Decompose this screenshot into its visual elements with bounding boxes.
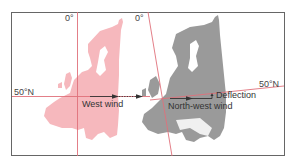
parallel-label-original: 50°N [14, 88, 34, 97]
deflection-label: Deflection [216, 91, 256, 100]
west-wind-label: West wind [82, 100, 123, 109]
meridian-label-rotated: 0° [135, 14, 144, 23]
diagram-canvas [0, 0, 296, 166]
coriolis-deflection-diagram: 0° 0° 50°N 50°N West wind North-west win… [0, 0, 296, 166]
parallel-label-rotated: 50°N [259, 80, 279, 89]
northwest-wind-label: North-west wind [168, 102, 233, 111]
diagram-frame [12, 13, 285, 156]
meridian-label-original: 0° [65, 14, 74, 23]
